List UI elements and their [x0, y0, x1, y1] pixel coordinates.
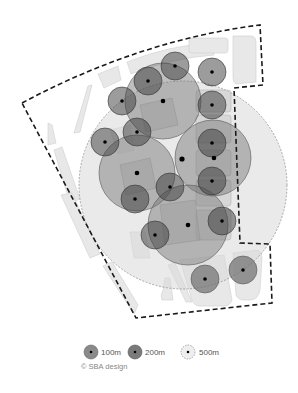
- legend: [84, 345, 195, 359]
- walking-radius-diagram: [0, 0, 298, 393]
